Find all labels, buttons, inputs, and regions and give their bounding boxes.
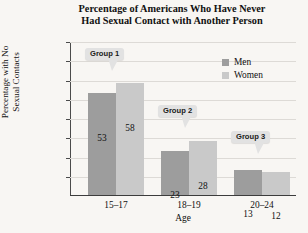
callout-tail-group-2-icon — [181, 115, 197, 129]
legend-swatch-women-icon — [222, 72, 229, 79]
chart-title: Percentage of Americans Who Have Never H… — [44, 3, 300, 26]
ytick-mark-80 — [66, 42, 70, 43]
ytick-mark-30 — [66, 138, 70, 139]
bar-women-15-17 — [116, 83, 144, 195]
y-axis-title-line-2: Sexual Contacts — [11, 12, 22, 152]
bar-value-men-18-19: 23 — [161, 190, 189, 200]
bar-men-18-19 — [161, 151, 189, 195]
ytick-mark-20 — [66, 158, 70, 159]
callout-tail-group-3-icon — [254, 141, 270, 155]
xtick-label-15-17: 15–17 — [88, 200, 144, 210]
bar-women-20-24 — [262, 172, 290, 195]
ytick-mark-60 — [66, 81, 70, 82]
bar-value-women-18-19: 28 — [189, 181, 217, 191]
bar-value-men-15-17: 53 — [88, 133, 116, 143]
bar-men-15-17 — [88, 93, 116, 195]
ytick-mark-40 — [66, 119, 70, 120]
y-axis-title-line-1: Percentage with No — [0, 12, 11, 152]
xtick-label-18-19: 18–19 — [161, 200, 217, 210]
ytick-mark-50 — [66, 100, 70, 101]
x-axis-title: Age — [70, 213, 296, 223]
xtick-label-20-24: 20–24 — [234, 200, 290, 210]
bar-value-women-15-17: 58 — [116, 123, 144, 133]
ytick-mark-10 — [66, 177, 70, 178]
y-axis-title: Percentage with No Sexual Contacts — [0, 12, 40, 152]
legend-item-men: Men — [222, 56, 263, 68]
ytick-mark-70 — [66, 61, 70, 62]
bar-chart: Percentage of Americans Who Have Never H… — [0, 0, 308, 233]
gridline-80 — [70, 42, 296, 43]
legend: Men Women — [222, 56, 263, 82]
chart-title-line-2: Had Sexual Contact with Another Person — [44, 15, 300, 27]
bar-men-20-24 — [234, 170, 262, 195]
legend-swatch-men-icon — [222, 59, 229, 66]
legend-item-women: Women — [222, 69, 263, 81]
legend-label-women: Women — [234, 70, 263, 80]
chart-title-line-1: Percentage of Americans Who Have Never — [44, 3, 300, 15]
callout-tail-group-1-icon — [108, 58, 124, 72]
legend-label-men: Men — [234, 57, 251, 67]
